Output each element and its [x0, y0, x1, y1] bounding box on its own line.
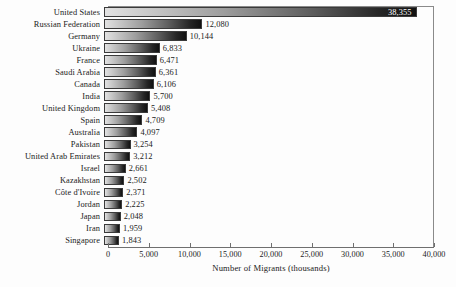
bar	[104, 43, 160, 53]
category-label: United Arab Emirates	[0, 152, 104, 161]
bar-value-label: 2,371	[123, 187, 145, 199]
bar	[104, 200, 122, 210]
bar	[104, 212, 121, 222]
bar-value-label: 1,843	[119, 235, 141, 247]
bar-row: Russian Federation12,080	[0, 18, 456, 30]
x-tick-label: 5,000	[139, 250, 158, 260]
bar-value-label: 2,502	[124, 175, 146, 187]
x-tick	[353, 243, 354, 247]
bar-value-label: 3,212	[130, 151, 152, 163]
category-label: Singapore	[0, 236, 104, 245]
x-tick-label: 15,000	[219, 250, 242, 260]
x-tick	[108, 243, 109, 247]
category-label: Iran	[0, 224, 104, 233]
x-axis-line	[108, 247, 434, 248]
category-label: France	[0, 56, 104, 65]
bar-track: 6,471	[104, 54, 456, 66]
bar-track: 2,661	[104, 163, 456, 175]
x-tick	[149, 243, 150, 247]
bar-row: United States38,355	[0, 6, 456, 18]
x-tick-label: 20,000	[259, 250, 282, 260]
bar-row: Ukraine6,833	[0, 42, 456, 54]
bar-track: 10,144	[104, 30, 456, 42]
bar-track: 1,843	[104, 235, 456, 247]
category-label: Australia	[0, 128, 104, 137]
category-label: Japan	[0, 212, 104, 221]
bar-value-label: 4,709	[142, 114, 164, 126]
bar-row: Jordan2,225	[0, 199, 456, 211]
bar-row: Côte d'Ivoire2,371	[0, 187, 456, 199]
bar-row: Canada6,106	[0, 78, 456, 90]
category-label: Germany	[0, 32, 104, 41]
bar	[104, 236, 119, 246]
bar-value-label: 4,097	[137, 126, 159, 138]
bar-value-label: 3,254	[131, 139, 153, 151]
category-label: United States	[0, 8, 104, 17]
bar-row: India5,700	[0, 90, 456, 102]
category-label: Saudi Arabia	[0, 68, 104, 77]
bar-row: France6,471	[0, 54, 456, 66]
bar-value-label: 2,225	[122, 199, 144, 211]
x-tick	[312, 243, 313, 247]
bar	[104, 176, 124, 186]
x-tick	[190, 243, 191, 247]
bar-track: 2,371	[104, 187, 456, 199]
bar-row: Spain4,709	[0, 114, 456, 126]
bar-value-label: 2,661	[126, 163, 148, 175]
bar	[104, 19, 202, 29]
bar-row: Israel2,661	[0, 163, 456, 175]
bar-track: 2,225	[104, 199, 456, 211]
category-label: Spain	[0, 116, 104, 125]
bar-row: United Kingdom5,408	[0, 102, 456, 114]
category-label: Israel	[0, 164, 104, 173]
category-label: Kazakhstan	[0, 176, 104, 185]
bar-value-label: 6,361	[156, 66, 178, 78]
bar-track: 5,700	[104, 90, 456, 102]
x-tick	[230, 243, 231, 247]
bar	[104, 164, 126, 174]
x-tick-label: 10,000	[178, 250, 201, 260]
bar-value-label: 2,048	[121, 211, 143, 223]
x-tick	[434, 243, 435, 247]
x-tick-label: 35,000	[382, 250, 405, 260]
x-tick-label: 0	[106, 250, 110, 260]
bar	[104, 115, 142, 125]
bar-row: Germany10,144	[0, 30, 456, 42]
bar-track: 12,080	[104, 18, 456, 30]
x-tick-label: 25,000	[300, 250, 323, 260]
bar	[104, 79, 154, 89]
bar-track: 5,408	[104, 102, 456, 114]
bar-track: 6,833	[104, 42, 456, 54]
x-axis-title: Number of Migrants (thousands)	[108, 263, 434, 274]
bar-row: Kazakhstan2,502	[0, 175, 456, 187]
bar-track: 6,106	[104, 78, 456, 90]
migrants-bar-chart: United States38,355Russian Federation12,…	[0, 0, 456, 287]
bar-track: 6,361	[104, 66, 456, 78]
category-label: United Kingdom	[0, 104, 104, 113]
bar	[104, 152, 130, 162]
bar-row: Japan2,048	[0, 211, 456, 223]
x-tick-label: 40,000	[422, 250, 445, 260]
bar-row: Australia4,097	[0, 126, 456, 138]
bar	[104, 224, 120, 234]
bar	[104, 91, 150, 101]
bar-track: 1,959	[104, 223, 456, 235]
x-tick	[393, 243, 394, 247]
bar-value-label: 6,471	[157, 54, 179, 66]
bar-row: Iran1,959	[0, 223, 456, 235]
bar-track: 3,254	[104, 139, 456, 151]
bar	[104, 55, 157, 65]
bar-track: 38,355	[104, 6, 456, 18]
bar-value-label: 5,700	[150, 90, 172, 102]
bar	[104, 127, 137, 137]
bar	[104, 140, 131, 150]
category-label: Pakistan	[0, 140, 104, 149]
x-tick-label: 30,000	[341, 250, 364, 260]
bar-track: 2,048	[104, 211, 456, 223]
bar-value-label: 5,408	[148, 102, 170, 114]
bar	[104, 188, 123, 198]
bar-value-label: 10,144	[187, 30, 214, 42]
x-tick	[271, 243, 272, 247]
category-label: Jordan	[0, 200, 104, 209]
bar-value-label: 38,355	[388, 6, 417, 18]
